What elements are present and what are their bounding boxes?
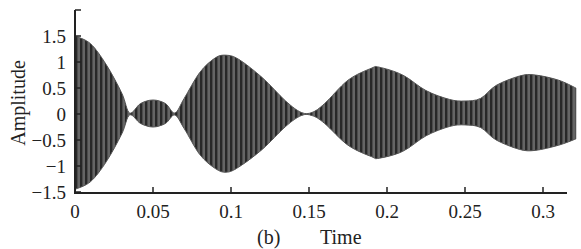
x-tick-label: 0.15 [292,201,325,222]
y-tick-label: −0.5 [32,130,66,151]
panel-label: (b) [257,226,280,249]
y-tick-label: 0 [57,104,67,125]
y-axis-title: Amplitude [7,60,30,146]
x-tick-label: 0 [70,201,80,222]
y-ticks: −1.5−1−0.500.511.5 [32,26,81,203]
x-axis-title: Time [320,226,362,248]
y-tick-label: 1 [57,52,67,73]
y-tick-label: −1.5 [32,182,66,203]
y-tick-label: 0.5 [42,78,66,99]
x-tick-label: 0.05 [136,201,169,222]
y-tick-label: −1 [46,156,66,177]
y-tick-label: 1.5 [42,26,66,47]
amplitude-time-chart: −1.5−1−0.500.511.5 00.050.10.150.20.250.… [0,0,581,249]
x-tick-label: 0.3 [531,201,555,222]
x-tick-label: 0.1 [219,201,243,222]
x-tick-label: 0.2 [375,201,399,222]
x-tick-label: 0.25 [448,201,481,222]
